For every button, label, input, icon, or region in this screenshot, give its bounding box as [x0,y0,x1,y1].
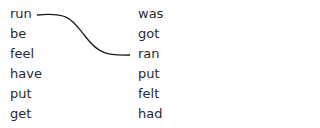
right-word-felt[interactable]: felt [138,86,159,102]
right-word-got[interactable]: got [138,26,159,42]
right-word-put[interactable]: put [138,66,160,82]
right-word-was[interactable]: was [138,6,163,22]
right-word-ran[interactable]: ran [138,46,160,62]
right-word-had[interactable]: had [138,106,162,122]
